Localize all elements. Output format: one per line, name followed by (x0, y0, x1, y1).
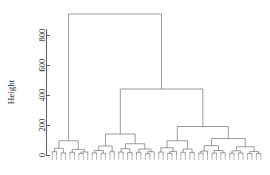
y-axis-tick-label: 400 (37, 89, 47, 102)
y-axis-tick-label: 200 (37, 119, 47, 132)
dendrogram-plot: 0200400600800 Height (0, 0, 270, 175)
y-axis-tick-label: 600 (37, 59, 47, 72)
y-axis-tick-label: 800 (37, 29, 47, 42)
dendrogram-figure: 0200400600800 Height (0, 0, 270, 175)
y-axis-title: Height (6, 79, 16, 104)
y-axis-tick-label: 0 (37, 153, 47, 157)
plot-background (0, 0, 270, 175)
